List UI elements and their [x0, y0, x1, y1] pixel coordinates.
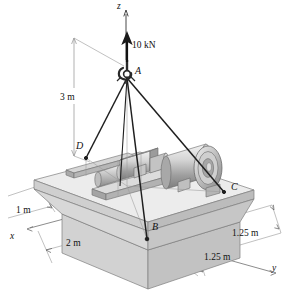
- force-label-10kn: 10 kN: [132, 41, 156, 51]
- flywheel-shaft: [207, 163, 212, 171]
- dim-label-1m: 1 m: [16, 206, 31, 216]
- dim-label-3m: 3 m: [60, 93, 75, 103]
- dim-label-125m-front: 1.25 m: [204, 253, 230, 263]
- point-label-B: B: [152, 222, 158, 232]
- cable-anchor-B: [145, 237, 149, 241]
- axis-x-arrow: [27, 227, 33, 232]
- axis-label-x: x: [10, 232, 14, 242]
- axis-label-y: y: [272, 264, 276, 274]
- machine-main-cap-rear: [161, 156, 171, 189]
- dim-3m-leader-top: [74, 38, 124, 66]
- dim-2m-ext-left: [38, 231, 52, 263]
- dim-label-125m-right: 1.25 m: [232, 229, 258, 239]
- point-label-A: A: [135, 66, 141, 76]
- figure-canvas: z x y 10 kN A B C D 3 m 1 m 2 m 1.25 m 1…: [0, 0, 285, 304]
- dim-label-2m: 2 m: [66, 239, 81, 249]
- cable-anchor-D: [84, 156, 87, 159]
- cable-anchor-C: [222, 190, 225, 193]
- cable-AD: [86, 78, 127, 158]
- dim-1m-upper: [8, 186, 38, 196]
- point-label-C: C: [231, 182, 238, 192]
- point-label-D: D: [76, 141, 83, 151]
- machine-small-cap-left: [95, 172, 101, 187]
- axis-label-z: z: [117, 2, 121, 12]
